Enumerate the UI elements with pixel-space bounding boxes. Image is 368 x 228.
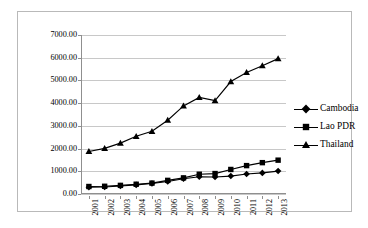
data-point-marker xyxy=(259,62,266,68)
y-axis-tick-label: 2000.00 xyxy=(50,144,77,152)
y-axis-tick-mark xyxy=(78,126,81,127)
triangle-marker-icon xyxy=(302,141,310,148)
series-thailand xyxy=(85,55,281,154)
data-point-marker xyxy=(260,160,265,165)
x-axis-tick-label: 2006 xyxy=(171,199,179,215)
series-layer xyxy=(81,35,286,194)
data-point-marker xyxy=(117,140,124,146)
x-axis-tick-mark xyxy=(152,196,153,199)
data-point-marker xyxy=(197,172,202,177)
x-axis-tick-label: 2010 xyxy=(234,199,242,215)
x-axis-tick-mark xyxy=(105,196,106,199)
x-axis-tick-mark xyxy=(262,196,263,199)
x-axis-tick-mark xyxy=(168,196,169,199)
diamond-marker-icon xyxy=(302,105,311,114)
y-axis-tick-label: 0.00 xyxy=(63,190,77,198)
data-point-marker xyxy=(196,94,203,100)
legend-label-thailand: Thailand xyxy=(318,140,353,149)
data-point-marker xyxy=(165,178,170,183)
x-axis-tick-label: 2013 xyxy=(281,199,289,215)
y-axis-tick-label: 5000.00 xyxy=(50,76,77,84)
data-point-marker xyxy=(275,55,282,61)
x-axis-tick-label: 2012 xyxy=(266,199,274,215)
x-axis-tick-label: 2009 xyxy=(218,199,226,215)
chart-frame: 0.001000.002000.003000.004000.005000.006… xyxy=(17,11,352,212)
x-axis-tick-label: 2001 xyxy=(92,199,100,215)
y-axis-tick-mark xyxy=(78,103,81,104)
legend-item-thailand[interactable]: Thailand xyxy=(294,136,368,154)
y-axis-tick-mark xyxy=(78,149,81,150)
y-axis-tick-mark xyxy=(78,58,81,59)
data-point-marker xyxy=(228,167,233,172)
x-axis-tick-mark xyxy=(89,196,90,199)
legend-label-lao-pdr: Lao PDR xyxy=(318,122,355,131)
x-axis-tick-label: 2011 xyxy=(250,199,258,215)
y-axis-tick-label: 6000.00 xyxy=(50,54,77,62)
data-point-marker xyxy=(244,163,249,168)
data-point-marker xyxy=(149,180,154,185)
gridline xyxy=(81,194,286,195)
data-point-marker xyxy=(181,175,186,180)
y-axis-tick-label: 4000.00 xyxy=(50,99,77,107)
data-point-marker xyxy=(243,69,250,75)
x-axis-tick-mark xyxy=(231,196,232,199)
data-point-marker xyxy=(212,171,217,176)
x-axis-labels: 2001200220032004200520062007200820092010… xyxy=(81,196,286,228)
y-axis-tick-mark xyxy=(78,194,81,195)
y-axis-tick-label: 1000.00 xyxy=(50,167,77,175)
x-axis-tick-label: 2005 xyxy=(155,199,163,215)
data-point-marker xyxy=(102,184,107,189)
x-axis-tick-label: 2003 xyxy=(124,199,132,215)
plot-area xyxy=(81,35,286,194)
y-axis-tick-mark xyxy=(78,80,81,81)
chart-legend: Cambodia Lao PDR Thailand xyxy=(294,100,368,156)
x-axis-tick-label: 2002 xyxy=(108,199,116,215)
data-point-marker xyxy=(275,157,280,162)
data-point-marker xyxy=(180,102,187,108)
legend-item-lao-pdr[interactable]: Lao PDR xyxy=(294,118,368,136)
x-axis-tick-mark xyxy=(215,196,216,199)
y-axis-labels: 0.001000.002000.003000.004000.005000.006… xyxy=(18,35,77,194)
data-point-marker xyxy=(86,184,91,189)
legend-key-cambodia xyxy=(294,103,318,115)
x-axis-tick-label: 2008 xyxy=(202,199,210,215)
x-axis-tick-label: 2004 xyxy=(139,199,147,215)
legend-item-cambodia[interactable]: Cambodia xyxy=(294,100,368,118)
x-axis-tick-label: 2007 xyxy=(187,199,195,215)
data-point-marker xyxy=(227,78,234,84)
y-axis-tick-label: 3000.00 xyxy=(50,122,77,130)
data-point-marker xyxy=(228,173,235,180)
y-axis-tick-mark xyxy=(78,171,81,172)
x-axis-tick-mark xyxy=(278,196,279,199)
data-point-marker xyxy=(133,182,138,187)
legend-key-lao-pdr xyxy=(294,121,318,133)
legend-key-thailand xyxy=(294,139,318,151)
data-point-marker xyxy=(259,170,266,177)
data-point-marker xyxy=(243,171,250,178)
x-axis-tick-mark xyxy=(247,196,248,199)
data-point-marker xyxy=(149,128,156,134)
chart-figure: 0.001000.002000.003000.004000.005000.006… xyxy=(0,0,368,228)
square-marker-icon xyxy=(303,124,309,130)
y-axis-tick-mark xyxy=(78,35,81,36)
x-axis-tick-mark xyxy=(120,196,121,199)
x-axis-tick-mark xyxy=(184,196,185,199)
legend-label-cambodia: Cambodia xyxy=(318,104,359,113)
data-point-marker xyxy=(118,183,123,188)
data-point-marker xyxy=(275,168,282,175)
y-axis-tick-label: 7000.00 xyxy=(50,31,77,39)
